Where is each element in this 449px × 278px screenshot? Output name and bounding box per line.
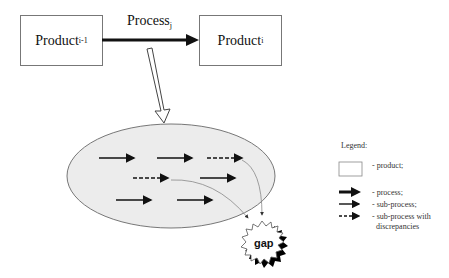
- legend-subprocess-label: - sub-process;: [372, 200, 417, 209]
- legend-product-symbol: [339, 162, 362, 176]
- legend-discrepancy-label: - sub-process with discrepancies: [372, 212, 431, 232]
- legend-product-label: - product;: [372, 161, 403, 170]
- legend-title: Legend:: [341, 141, 367, 150]
- hollow-zoom-arrow: [147, 48, 170, 123]
- legend-discrepancy-line1: - sub-process with: [372, 212, 431, 222]
- legend-process-label: - process;: [372, 188, 403, 197]
- legend-process-symbol: [339, 187, 361, 197]
- legend-discrepancy-line2: discrepancies: [372, 222, 431, 232]
- process-ellipse: [67, 124, 275, 228]
- diagram-canvas: [0, 0, 449, 278]
- gap-label: gap: [254, 237, 274, 249]
- legend-symbols: [339, 162, 362, 216]
- process-arrow: [102, 34, 199, 46]
